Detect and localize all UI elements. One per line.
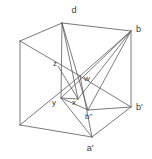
cube-edges	[20, 23, 131, 137]
line-b-to-b-dprime	[88, 31, 131, 110]
label-y: y	[52, 98, 56, 107]
label-x: x	[72, 98, 76, 107]
edge-a-prime-to-b-prime	[92, 107, 131, 137]
edge-d-to-b	[62, 23, 131, 31]
internal-construction-lines	[58, 23, 131, 137]
line-b-to-x	[78, 31, 131, 99]
label-b-prime: b'	[136, 102, 143, 112]
edge-b-dprime-to-b-prime	[88, 107, 131, 110]
label-z: z	[53, 59, 57, 68]
label-a-prime: a'	[87, 143, 94, 153]
label-w: w	[83, 74, 90, 83]
label-b: b	[136, 24, 141, 34]
edge-d-to-left-top	[20, 23, 62, 41]
edge-left-bottom-to-a-prime	[20, 125, 92, 137]
figure-container: d b z w y x b" b' a'	[0, 0, 152, 159]
label-d: d	[71, 5, 76, 15]
line-d-to-y	[61, 23, 62, 98]
line-d-to-x	[62, 23, 78, 99]
cube-diagram: d b z w y x b" b' a'	[0, 0, 152, 159]
edge-left-bottom-to-w	[20, 76, 80, 125]
edge-left-top-to-w	[20, 41, 80, 76]
line-b-to-w	[80, 31, 131, 76]
label-b-double-prime: b"	[85, 112, 92, 121]
